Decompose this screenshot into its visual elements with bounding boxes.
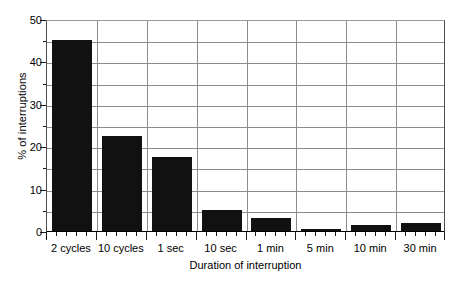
- x-tick-minor: [76, 232, 77, 236]
- x-tick-major: [46, 232, 47, 240]
- bar: [301, 229, 341, 231]
- x-tick-label: 10 sec: [204, 241, 236, 255]
- x-tick-label: 1 sec: [158, 241, 184, 255]
- x-tick-minor: [425, 232, 426, 236]
- y-tick-major: [40, 147, 46, 148]
- x-tick-minor: [206, 232, 207, 236]
- x-axis-ticks: [46, 232, 445, 240]
- bar: [52, 40, 92, 231]
- x-tick-major: [395, 232, 396, 240]
- bars-layer: [47, 21, 444, 231]
- x-tick-minor: [166, 232, 167, 236]
- bar: [202, 210, 242, 231]
- y-axis-ticks: [40, 20, 46, 232]
- bar: [401, 223, 441, 231]
- x-tick-minor: [305, 232, 306, 236]
- x-tick-minor: [385, 232, 386, 236]
- x-tick-minor: [375, 232, 376, 236]
- x-tick-minor: [285, 232, 286, 236]
- y-tick-minor: [43, 211, 47, 212]
- x-tick-minor: [226, 232, 227, 236]
- y-axis-tick-labels: 01020304050: [18, 20, 42, 232]
- x-tick-minor: [315, 232, 316, 236]
- x-tick-minor: [355, 232, 356, 236]
- x-tick-major: [295, 232, 296, 240]
- x-tick-label: 10 min: [354, 241, 387, 255]
- y-tick-minor: [43, 41, 47, 42]
- x-tick-minor: [216, 232, 217, 236]
- x-tick-label: 2 cycles: [51, 241, 91, 255]
- x-tick-label: 1 min: [257, 241, 284, 255]
- x-tick-minor: [236, 232, 237, 236]
- x-tick-minor: [265, 232, 266, 236]
- x-tick-minor: [66, 232, 67, 236]
- x-tick-label: 10 cycles: [98, 241, 144, 255]
- x-axis-title: Duration of interruption: [46, 259, 445, 271]
- x-tick-label: 5 min: [307, 241, 334, 255]
- plot-area: [46, 20, 445, 232]
- bar: [251, 218, 291, 231]
- x-tick-minor: [415, 232, 416, 236]
- x-tick-minor: [365, 232, 366, 236]
- y-tick-major: [40, 20, 46, 21]
- x-tick-major: [345, 232, 346, 240]
- x-tick-minor: [275, 232, 276, 236]
- x-tick-minor: [156, 232, 157, 236]
- x-tick-minor: [116, 232, 117, 236]
- x-tick-major: [444, 232, 445, 240]
- x-tick-minor: [186, 232, 187, 236]
- y-tick-minor: [43, 84, 47, 85]
- bar-chart: % of interruptions 01020304050 2 cycles1…: [0, 0, 459, 282]
- x-tick-minor: [176, 232, 177, 236]
- x-tick-minor: [86, 232, 87, 236]
- y-tick-major: [40, 105, 46, 106]
- x-axis-tick-labels: 2 cycles10 cycles1 sec10 sec1 min5 min10…: [46, 241, 445, 257]
- y-tick-major: [40, 190, 46, 191]
- x-tick-major: [96, 232, 97, 240]
- bar: [102, 136, 142, 231]
- x-tick-label: 30 min: [404, 241, 437, 255]
- bar: [351, 225, 391, 231]
- y-tick-minor: [43, 168, 47, 169]
- bar: [152, 157, 192, 231]
- x-tick-major: [196, 232, 197, 240]
- x-tick-minor: [255, 232, 256, 236]
- x-tick-minor: [126, 232, 127, 236]
- x-tick-minor: [435, 232, 436, 236]
- x-tick-minor: [136, 232, 137, 236]
- y-tick-minor: [43, 126, 47, 127]
- x-tick-minor: [335, 232, 336, 236]
- x-tick-minor: [325, 232, 326, 236]
- x-tick-minor: [56, 232, 57, 236]
- x-tick-major: [246, 232, 247, 240]
- x-tick-major: [146, 232, 147, 240]
- x-tick-minor: [106, 232, 107, 236]
- x-tick-minor: [405, 232, 406, 236]
- y-tick-major: [40, 62, 46, 63]
